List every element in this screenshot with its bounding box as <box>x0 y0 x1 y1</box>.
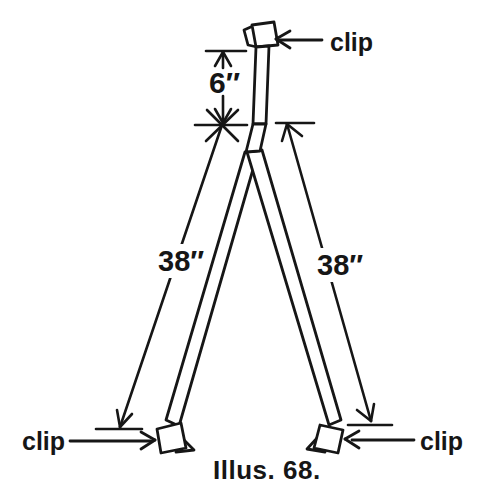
top-clip-label: clip <box>330 28 373 56</box>
left-leg <box>166 152 258 426</box>
bottom-left-clip-callout: clip <box>22 427 155 455</box>
top-clip-callout: clip <box>276 28 373 56</box>
mast-upper-tube <box>253 46 269 124</box>
bottom-right-clip-callout: clip <box>345 427 463 455</box>
dim-6-label: 6″ <box>209 66 240 99</box>
antenna-diagram: 6″ 38″ 38″ <box>0 0 483 504</box>
bottom-left-clip-label: clip <box>22 427 65 455</box>
bottom-right-clip-label: clip <box>420 427 463 455</box>
top-clip-shape <box>252 22 278 47</box>
figure-caption: Illus. 68. <box>213 455 321 485</box>
mast-lower-joint <box>246 124 266 152</box>
dim-38-right-arrowhead <box>357 404 374 421</box>
dimension-left-leg-38in: 38″ <box>96 125 222 429</box>
bottom-right-clip-shape <box>314 425 343 453</box>
right-leg <box>247 150 341 425</box>
dim-38-left-label: 38″ <box>158 245 204 277</box>
bottom-left-clip-shape <box>157 423 186 453</box>
dim-38-right-label: 38″ <box>317 249 363 281</box>
illustration-page: 6″ 38″ 38″ <box>0 0 483 504</box>
